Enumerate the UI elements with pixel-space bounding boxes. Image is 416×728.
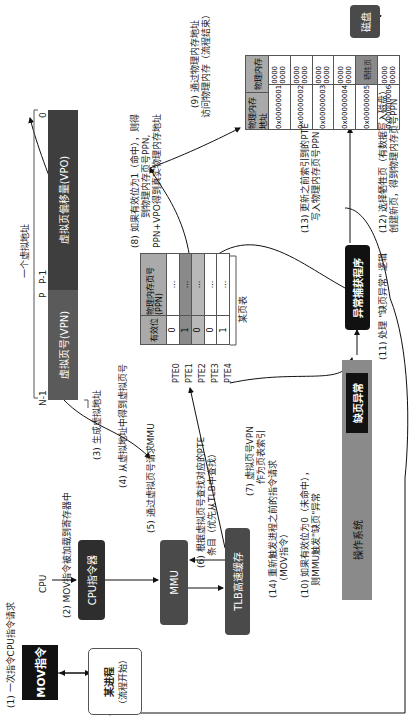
exception-handler-node: 异常捕获程序 (345, 245, 370, 330)
step-2-label: (2) MOV指令被加载到寄存器中 (62, 492, 73, 618)
os-label: 操作系统 (350, 520, 365, 560)
step-7-label: (7) 虚拟页号VPN 作为页表索引 (245, 426, 267, 496)
pte-row-0: 0 ... (167, 254, 180, 344)
mov-instruction-node: MOV指令 (22, 645, 58, 700)
step-8-label: (8) 如果有效位为1（命中），则得 到物理内存页号PPN, PPN+VPO得到… (130, 114, 163, 248)
pte-row-1: 1 ... (180, 254, 193, 344)
step-1-label: (1) 一次指令CPU指令请求 (6, 602, 17, 708)
virtual-address-title: 一个虚拟地址 (20, 224, 31, 278)
cpu-label: CPU (38, 575, 49, 593)
step-14-label: (14) 重新触发进程之前的指令请求 （MOV指令） (268, 460, 290, 598)
step-3-label: (3) 生成虚拟地址 (92, 390, 103, 460)
pm-row: 0x00000002 0000 0000 (291, 56, 313, 129)
process-sublabel: （流程开始） (116, 655, 129, 709)
pte-row-2: 0 ... (192, 254, 205, 344)
vpn-field: 虚拟页号(VPN) (48, 290, 78, 400)
vpo-label: 虚拟页偏移量(VPO) (56, 156, 71, 245)
step-11-label: (11) 处理 "缺页异常" 逻辑 (378, 253, 389, 360)
diagram-canvas: MOV指令 某进程 （流程开始） (1) 一次指令CPU指令请求 CPU CPU… (0, 0, 416, 728)
pt-col-valid: 有效位 (141, 315, 166, 344)
step-10-label: (10) 如果有效位为0（未命中）， 则MMU触发"缺页"异常 (300, 467, 322, 598)
victim-page-cell: 牺牲页 (356, 56, 377, 84)
step-9-label: (9) 通过物理内存地址 访问物理内存（流程结束） (190, 10, 212, 118)
pm-row: 0x00000004 0000 0000 (334, 56, 356, 129)
process-label: 某进程 (101, 667, 116, 697)
disk-label: 磁盘 (358, 12, 373, 32)
vpn-label: 虚拟页号(VPN) (56, 311, 71, 379)
pm-row: 0x00000003 0000 0000 (313, 56, 335, 129)
process-node: 某进程 （流程开始） (88, 648, 142, 715)
step-5-label: (5) 通过虚拟页号请求MMU (146, 423, 157, 533)
physical-memory-table: 物理内存地址 物理内存 0x00000001 0000 0000 0x00000… (245, 55, 400, 130)
step-13-label: (13) 更新之前索引到的PTE 写入物理内存页号PPN (300, 123, 322, 233)
page-fault-node: 缺页异常 (346, 373, 368, 433)
step-6-label: (6) 根据虚拟页号查找对应的PTE 条目（优先从TLB中查找） (196, 437, 218, 568)
page-fault-label: 缺页异常 (350, 383, 365, 423)
pte-labels: PTE0 PTE1 PTE2 PTE3 PTE4 (170, 363, 235, 383)
pte-row-4: 1 ... (217, 254, 229, 344)
mmu-node: MMU (160, 540, 188, 625)
tlb-node: TLB高速缓存 (225, 528, 250, 635)
page-table-real: 有效位 物理内存页号(PPN) 0 ... 1 ... 0 ... (140, 253, 230, 345)
mov-instruction-label: MOV指令 (32, 647, 48, 698)
step-12-label: (12) 选择牺牲页（有数据写入磁盘） 创建新页，得到物理内存页号PPN (378, 86, 400, 233)
pm-row: 0x00000001 0000 0000 (269, 56, 291, 129)
cpu-register-label: CPU指令器 (84, 555, 99, 605)
vpo-field: 虚拟页偏移量(VPO) (48, 110, 78, 290)
pm-row-victim: 0x00000005 牺牲页 (356, 56, 378, 129)
pte-row-3: 0 ... (205, 254, 218, 344)
pm-header-row: 物理内存地址 物理内存 (246, 56, 269, 129)
tlb-label: TLB高速缓存 (230, 552, 245, 611)
step-4-label: (4) 从虚拟地址中得到虚拟页号 (118, 364, 129, 488)
disk-node: 磁盘 (350, 5, 380, 38)
pt-header-row: 有效位 物理内存页号(PPN) (141, 254, 167, 344)
mmu-label: MMU (169, 570, 180, 595)
cpu-register-node: CPU指令器 (78, 540, 105, 620)
exception-handler-label: 异常捕获程序 (350, 258, 365, 318)
pt-col-ppn: 物理内存页号(PPN) (141, 254, 166, 315)
page-table-caption: 某页表 (238, 296, 249, 323)
